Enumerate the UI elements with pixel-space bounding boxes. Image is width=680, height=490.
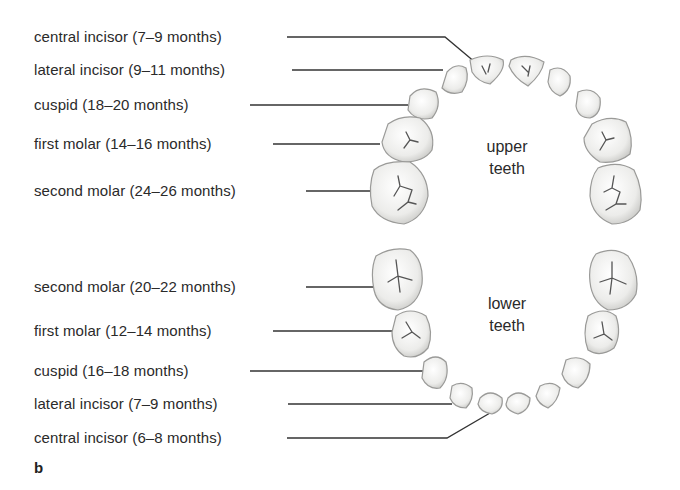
label-lower-cuspid: cuspid (16–18 months) [34,362,189,380]
label-lower-second-molar: second molar (20–22 months) [34,278,236,296]
label-upper-second-molar: second molar (24–26 months) [34,182,236,200]
lower-second-molar-left [372,249,422,310]
lower-central-incisor-left [478,393,502,414]
lower-second-molar-right [590,250,637,310]
upper-cuspid-left [408,89,438,119]
label-upper-first-molar: first molar (14–16 months) [34,135,212,153]
lower-title-line2: teeth [472,315,542,337]
lower-central-incisor-right [506,393,530,414]
lower-leader-lines [250,287,490,438]
lower-first-molar-left [392,311,431,357]
upper-cuspid-right [576,90,600,118]
panel-letter: b [34,459,43,476]
label-lower-central-incisor: central incisor (6–8 months) [34,429,222,447]
upper-second-molar-left [370,162,428,224]
lower-cuspid-right [562,358,590,388]
upper-title-line1: upper [472,136,542,158]
label-lower-lateral-incisor: lateral incisor (7–9 months) [34,395,218,413]
upper-leader-lines [250,37,476,191]
label-upper-lateral-incisor: lateral incisor (9–11 months) [34,61,225,79]
leader-upper-central-incisor [287,37,476,63]
lower-title-line1: lower [472,293,542,315]
upper-lateral-incisor-right [548,68,570,96]
lower-teeth-title: lower teeth [472,293,542,337]
upper-central-incisor-left [470,56,503,84]
lower-lateral-incisor-left [450,383,472,408]
upper-second-molar-right [590,164,641,224]
upper-lateral-incisor-left [442,66,467,94]
upper-first-molar-right [584,118,631,162]
upper-teeth-title: upper teeth [472,136,542,180]
upper-title-line2: teeth [472,158,542,180]
label-upper-cuspid: cuspid (18–20 months) [34,96,189,114]
leader-lower-central-incisor [287,413,490,438]
lower-first-molar-right [585,311,619,354]
label-upper-central-incisor: central incisor (7–9 months) [34,28,222,46]
lower-cuspid-left [422,357,447,388]
lower-lateral-incisor-right [536,383,560,408]
upper-first-molar-left [382,117,433,162]
label-lower-first-molar: first molar (12–14 months) [34,322,212,340]
